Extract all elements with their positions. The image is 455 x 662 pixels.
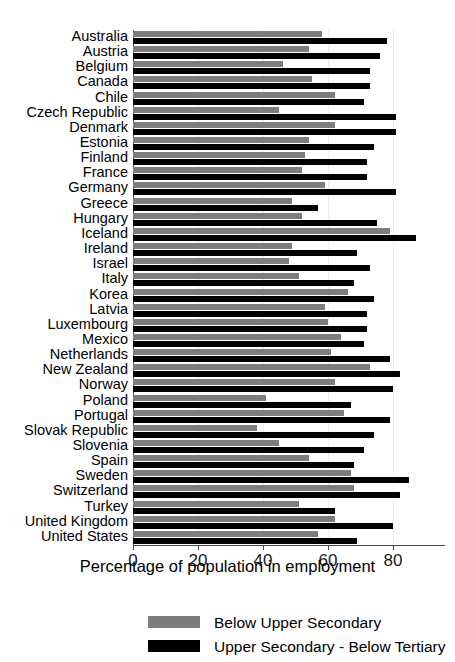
bar-row: Norway [133,378,445,393]
bar-upper-secondary-below-tertiary [133,523,393,529]
bar-row: Israel [133,257,445,272]
bar-row: Sweden [133,469,445,484]
bar-row: Czech Republic [133,106,445,121]
bar-upper-secondary-below-tertiary [133,296,374,302]
bar-below-upper-secondary [133,152,305,158]
bar-upper-secondary-below-tertiary [133,447,364,453]
bar-below-upper-secondary [133,304,325,310]
tick-mark [393,545,394,550]
bar-below-upper-secondary [133,198,292,204]
bar-row: Canada [133,75,445,90]
bar-row: Slovenia [133,439,445,454]
bar-below-upper-secondary [133,531,318,537]
legend-label: Below Upper Secondary [214,613,381,632]
bar-row: Spain [133,454,445,469]
bar-below-upper-secondary [133,289,348,295]
bar-upper-secondary-below-tertiary [133,265,370,271]
bar-upper-secondary-below-tertiary [133,250,357,256]
bar-upper-secondary-below-tertiary [133,402,351,408]
bar-row: Poland [133,394,445,409]
bar-upper-secondary-below-tertiary [133,280,354,286]
bar-chart: 020406080 AustraliaAustriaBelgiumCanadaC… [0,0,455,662]
bar-upper-secondary-below-tertiary [133,189,396,195]
bar-row: United Kingdom [133,515,445,530]
bar-upper-secondary-below-tertiary [133,538,357,544]
legend-swatch [148,616,200,628]
bar-row: Estonia [133,136,445,151]
bar-upper-secondary-below-tertiary [133,432,374,438]
bar-below-upper-secondary [133,228,390,234]
bar-row: Iceland [133,227,445,242]
bar-below-upper-secondary [133,440,279,446]
bar-row: Korea [133,288,445,303]
legend-item: Below Upper Secondary [0,610,455,634]
bar-row: Italy [133,272,445,287]
bar-below-upper-secondary [133,516,335,522]
bar-upper-secondary-below-tertiary [133,371,400,377]
bar-upper-secondary-below-tertiary [133,159,367,165]
legend-item: Upper Secondary - Below Tertiary [0,634,455,658]
bar-below-upper-secondary [133,364,370,370]
bar-row: Luxembourg [133,318,445,333]
bar-upper-secondary-below-tertiary [133,492,400,498]
bar-below-upper-secondary [133,455,309,461]
bar-below-upper-secondary [133,501,299,507]
bar-upper-secondary-below-tertiary [133,477,409,483]
bar-below-upper-secondary [133,273,299,279]
bar-upper-secondary-below-tertiary [133,235,416,241]
bar-below-upper-secondary [133,334,341,340]
bar-below-upper-secondary [133,46,309,52]
bar-upper-secondary-below-tertiary [133,311,367,317]
bar-below-upper-secondary [133,92,335,98]
bar-below-upper-secondary [133,470,351,476]
bar-row: Mexico [133,333,445,348]
bar-row: Slovak Republic [133,424,445,439]
bar-below-upper-secondary [133,379,335,385]
bar-row: New Zealand [133,363,445,378]
bar-row: France [133,166,445,181]
bar-upper-secondary-below-tertiary [133,83,370,89]
bar-below-upper-secondary [133,107,279,113]
bar-below-upper-secondary [133,319,328,325]
bar-below-upper-secondary [133,76,312,82]
bar-upper-secondary-below-tertiary [133,114,396,120]
bar-row: Germany [133,181,445,196]
bar-upper-secondary-below-tertiary [133,174,367,180]
bar-below-upper-secondary [133,485,354,491]
bar-row: Chile [133,91,445,106]
bar-row: Finland [133,151,445,166]
legend-swatch [148,640,200,652]
bar-row: Portugal [133,409,445,424]
bar-below-upper-secondary [133,410,344,416]
bar-upper-secondary-below-tertiary [133,129,396,135]
bar-upper-secondary-below-tertiary [133,220,377,226]
bar-row: Austria [133,45,445,60]
bar-upper-secondary-below-tertiary [133,99,364,105]
bar-row: Turkey [133,500,445,515]
bar-below-upper-secondary [133,213,302,219]
bar-row: Ireland [133,242,445,257]
bar-upper-secondary-below-tertiary [133,38,387,44]
bar-rows: AustraliaAustriaBelgiumCanadaChileCzech … [133,30,445,545]
tick-mark [263,545,264,550]
bar-upper-secondary-below-tertiary [133,417,390,423]
country-label: United States [41,528,128,545]
bar-below-upper-secondary [133,349,331,355]
bar-upper-secondary-below-tertiary [133,205,318,211]
x-axis-line [133,545,445,546]
bar-row: Latvia [133,303,445,318]
bar-upper-secondary-below-tertiary [133,326,367,332]
bar-below-upper-secondary [133,61,283,67]
x-axis-title: Percentage of population in employment [0,556,455,576]
bar-row: Hungary [133,212,445,227]
bar-below-upper-secondary [133,243,292,249]
legend-label: Upper Secondary - Below Tertiary [214,637,445,656]
bar-upper-secondary-below-tertiary [133,386,393,392]
bar-below-upper-secondary [133,167,302,173]
bar-below-upper-secondary [133,122,335,128]
bar-upper-secondary-below-tertiary [133,356,390,362]
bar-upper-secondary-below-tertiary [133,508,335,514]
bar-row: Netherlands [133,348,445,363]
bar-row: Denmark [133,121,445,136]
bar-upper-secondary-below-tertiary [133,53,380,59]
